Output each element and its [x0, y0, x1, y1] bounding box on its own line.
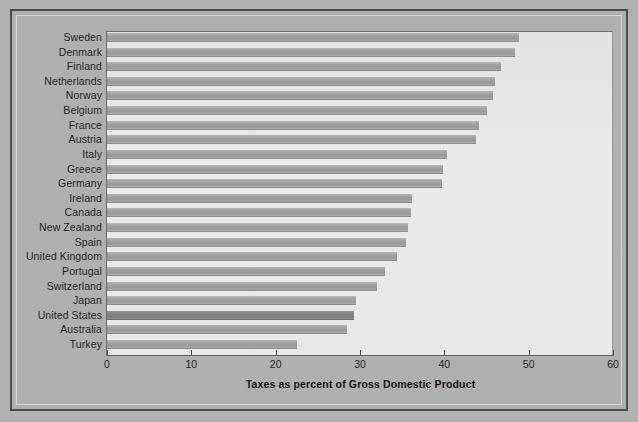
bar-row	[107, 252, 613, 261]
bar-row	[107, 91, 613, 100]
category-label-netherlands: Netherlands	[0, 76, 102, 86]
category-label-new-zealand: New Zealand	[0, 222, 102, 232]
x-axis-tick-labels: 0102030405060	[0, 358, 638, 372]
category-label-spain: Spain	[0, 237, 102, 247]
bar-germany	[107, 179, 442, 188]
x-tick-0	[107, 350, 108, 355]
x-tick-label-0: 0	[104, 358, 110, 370]
bar-united-kingdom	[107, 252, 397, 261]
x-tick-60	[613, 350, 614, 355]
x-tick-40	[444, 350, 445, 355]
bar-portugal	[107, 267, 385, 276]
bar-row	[107, 48, 613, 57]
bar-japan	[107, 296, 356, 305]
category-label-france: France	[0, 120, 102, 130]
x-tick-label-10: 10	[185, 358, 197, 370]
x-axis-title: Taxes as percent of Gross Domestic Produ…	[107, 378, 614, 390]
bar-belgium	[107, 106, 487, 115]
category-label-canada: Canada	[0, 207, 102, 217]
category-label-greece: Greece	[0, 164, 102, 174]
bar-new-zealand	[107, 223, 408, 232]
category-label-australia: Australia	[0, 324, 102, 334]
bar-row	[107, 77, 613, 86]
bar-row	[107, 325, 613, 334]
bar-row	[107, 33, 613, 42]
bar-row	[107, 135, 613, 144]
x-tick-label-60: 60	[607, 358, 619, 370]
category-label-germany: Germany	[0, 178, 102, 188]
x-tick-50	[529, 350, 530, 355]
bar-row	[107, 165, 613, 174]
bar-row	[107, 223, 613, 232]
category-label-ireland: Ireland	[0, 193, 102, 203]
x-tick-20	[276, 350, 277, 355]
category-label-united-kingdom: United Kingdom	[0, 251, 102, 261]
category-label-denmark: Denmark	[0, 47, 102, 57]
bar-row	[107, 208, 613, 217]
bar-switzerland	[107, 282, 377, 291]
bar-row	[107, 340, 613, 349]
bar-turkey	[107, 340, 297, 349]
bar-row	[107, 121, 613, 130]
category-label-belgium: Belgium	[0, 105, 102, 115]
category-label-switzerland: Switzerland	[0, 281, 102, 291]
x-axis-ticks	[107, 350, 614, 356]
category-label-portugal: Portugal	[0, 266, 102, 276]
bar-norway	[107, 91, 493, 100]
category-label-austria: Austria	[0, 134, 102, 144]
category-label-finland: Finland	[0, 61, 102, 71]
bar-france	[107, 121, 479, 130]
bar-row	[107, 238, 613, 247]
bar-row	[107, 150, 613, 159]
bar-spain	[107, 238, 406, 247]
bar-row	[107, 179, 613, 188]
bar-row	[107, 267, 613, 276]
bar-netherlands	[107, 77, 495, 86]
bar-sweden	[107, 33, 519, 42]
x-tick-10	[191, 350, 192, 355]
bar-austria	[107, 135, 476, 144]
bar-row	[107, 282, 613, 291]
x-tick-label-30: 30	[354, 358, 366, 370]
bar-row	[107, 62, 613, 71]
category-label-united-states: United States	[0, 310, 102, 320]
bar-greece	[107, 165, 443, 174]
bar-italy	[107, 150, 447, 159]
bar-denmark	[107, 48, 515, 57]
x-tick-label-40: 40	[438, 358, 450, 370]
bar-row	[107, 311, 613, 320]
category-label-norway: Norway	[0, 90, 102, 100]
bar-row	[107, 194, 613, 203]
bar-united-states	[107, 311, 354, 320]
bar-ireland	[107, 194, 412, 203]
category-label-sweden: Sweden	[0, 32, 102, 42]
x-tick-label-50: 50	[523, 358, 535, 370]
chart-figure: SwedenDenmarkFinlandNetherlandsNorwayBel…	[0, 0, 638, 422]
category-label-italy: Italy	[0, 149, 102, 159]
bar-row	[107, 296, 613, 305]
bar-finland	[107, 62, 501, 71]
category-axis-labels: SwedenDenmarkFinlandNetherlandsNorwayBel…	[0, 33, 102, 355]
bar-series	[107, 33, 613, 355]
category-label-turkey: Turkey	[0, 339, 102, 349]
bar-canada	[107, 208, 411, 217]
category-label-japan: Japan	[0, 295, 102, 305]
bar-australia	[107, 325, 347, 334]
x-tick-30	[360, 350, 361, 355]
x-tick-label-20: 20	[270, 358, 282, 370]
bar-row	[107, 106, 613, 115]
